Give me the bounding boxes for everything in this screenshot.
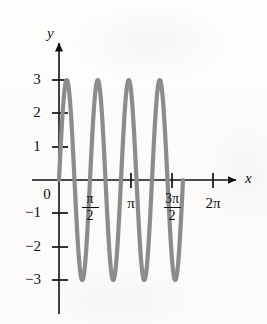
y-tick-label-3: 3 [28, 72, 46, 87]
x-axis-label: x [245, 171, 252, 186]
y-tick-label-neg1: −1 [20, 205, 46, 220]
pi-over-2-numerator: π [73, 192, 107, 207]
x-tick-label-pi-over-2: π 2 [73, 192, 107, 223]
trigonometric-graph-figure: y x 0 3 2 1 −1 −2 −3 π 2 π 3π 2 2π [0, 0, 267, 324]
origin-label: 0 [40, 187, 54, 202]
y-tick-label-2: 2 [28, 105, 46, 120]
y-tick-label-neg2: −2 [20, 239, 46, 254]
three-pi-over-2-numerator: 3π [155, 192, 189, 207]
x-tick-label-2pi: 2π [200, 196, 226, 211]
x-tick-label-pi: π [122, 196, 140, 211]
y-tick-label-neg3: −3 [20, 272, 46, 287]
x-tick-label-3pi-over-2: 3π 2 [155, 192, 189, 223]
three-pi-over-2-denominator: 2 [155, 208, 189, 223]
y-axis-label: y [47, 26, 54, 41]
y-tick-label-1: 1 [28, 139, 46, 154]
pi-over-2-denominator: 2 [73, 208, 107, 223]
